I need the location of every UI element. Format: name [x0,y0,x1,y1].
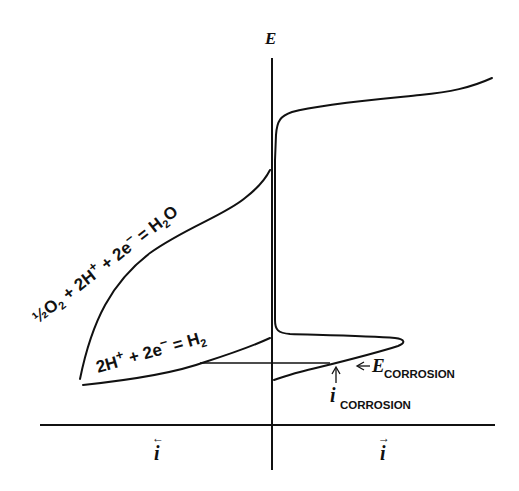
anodic-active-loop [274,160,403,380]
svg-text:i: i [330,384,336,406]
oxygen-reduction-label: ½O2 + 2H+ + 2e− = H2O [26,199,183,329]
svg-text:CORROSION: CORROSION [340,399,411,411]
svg-text:E: E [371,355,385,376]
svg-text:CORROSION: CORROSION [384,368,455,380]
anodic-polarization-curve [275,78,492,160]
current-right-label: i [380,442,386,464]
svg-text:½O2 + 2H+ + 2e− = H2O: ½O2 + 2H+ + 2e− = H2O [26,199,183,329]
svg-text:2H+ + 2e− = H2: 2H+ + 2e− = H2 [93,324,209,379]
hydrogen-evolution-label: 2H+ + 2e− = H2 [93,324,209,379]
polarization-diagram: E ← i → i ½O2 + 2H+ + 2e− = H2O 2H+ + 2e… [0,0,519,491]
corrosion-potential-annotation: E CORROSION [357,355,455,380]
current-left-label: i [154,442,160,464]
potential-axis-label: E [264,29,276,48]
